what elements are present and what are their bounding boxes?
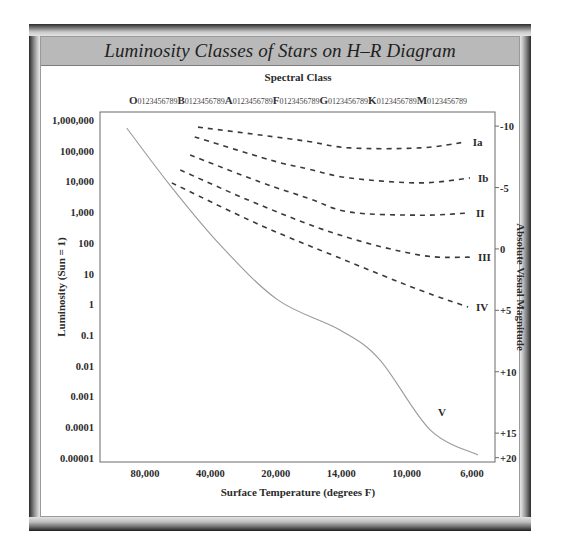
x-axis-title: Surface Temperature (degrees F) xyxy=(221,486,376,499)
right-tick-label: -5 xyxy=(500,183,509,194)
spectral-class-a: A xyxy=(225,94,233,106)
spectral-subdivisions: 0123456789 xyxy=(328,97,368,106)
spectral-class-m: M xyxy=(417,94,428,106)
series-label-v: V xyxy=(438,406,446,418)
hr-diagram-chart: Spectral Class O0123456789B0123456789A01… xyxy=(0,0,569,554)
spectral-subdivisions: 0123456789 xyxy=(138,97,178,106)
series-line-v xyxy=(127,128,478,455)
series-label-iii: III xyxy=(478,251,491,263)
left-tick-label: 100 xyxy=(78,238,94,249)
series-line-ii xyxy=(190,155,468,215)
left-tick-label: 0.0001 xyxy=(65,422,94,433)
series-line-ia xyxy=(198,127,465,149)
series-line-iii xyxy=(180,170,470,257)
series-line-ib xyxy=(195,137,470,183)
left-axis-title: Luminosity (Sun = 1) xyxy=(55,237,68,337)
left-tick-label: 100,000 xyxy=(60,146,94,157)
x-tick-label: 6,000 xyxy=(460,468,484,479)
x-tick-label: 20,000 xyxy=(261,468,290,479)
spectral-subdivisions: 0123456789 xyxy=(280,97,320,106)
spectral-subdivisions: 0123456789 xyxy=(185,97,225,106)
spectral-class-row: O0123456789B0123456789A0123456789F012345… xyxy=(129,94,467,106)
right-tick-label: +15 xyxy=(500,428,516,439)
right-axis-title: Absolute Visual Magnitude xyxy=(515,223,527,351)
spectral-subdivisions: 0123456789 xyxy=(233,97,273,106)
x-tick-label: 40,000 xyxy=(196,468,225,479)
left-tick-label: 10 xyxy=(84,269,95,280)
right-tick-label: -10 xyxy=(500,121,514,132)
series-label-ii: II xyxy=(476,207,485,219)
series-line-iv xyxy=(172,183,468,307)
right-tick-label: +20 xyxy=(500,453,516,464)
left-tick-label: 0.1 xyxy=(81,330,94,341)
spectral-subdivisions: 0123456789 xyxy=(427,97,467,106)
x-tick-label: 10,000 xyxy=(392,468,421,479)
series-layer xyxy=(127,127,478,455)
spectral-subdivisions: 0123456789 xyxy=(377,97,417,106)
x-tick-label: 14,000 xyxy=(327,468,356,479)
right-tick-label: +10 xyxy=(500,367,516,378)
top-axis-title: Spectral Class xyxy=(265,71,333,83)
series-labels: IaIbIIIIIIVV xyxy=(438,136,491,418)
series-label-iv: IV xyxy=(476,301,488,313)
x-axis-ticks: 80,00040,00020,00014,00010,0006,000 xyxy=(131,468,484,479)
series-label-ia: Ia xyxy=(473,136,483,148)
left-tick-label: 1,000 xyxy=(70,207,94,218)
series-label-ib: Ib xyxy=(478,172,488,184)
right-tick-label: +5 xyxy=(500,305,511,316)
left-tick-label: 0.00001 xyxy=(60,453,94,464)
plot-area xyxy=(100,112,495,462)
left-tick-label: 0.001 xyxy=(70,391,94,402)
left-tick-label: 1,000,000 xyxy=(52,115,94,126)
left-tick-label: 0.01 xyxy=(76,361,94,372)
right-axis-ticks: -10-50+5+10+15+20 xyxy=(495,121,516,464)
left-tick-label: 1 xyxy=(89,299,94,310)
x-tick-label: 80,000 xyxy=(131,468,160,479)
left-tick-label: 10,000 xyxy=(65,176,94,187)
right-tick-label: 0 xyxy=(500,244,505,255)
